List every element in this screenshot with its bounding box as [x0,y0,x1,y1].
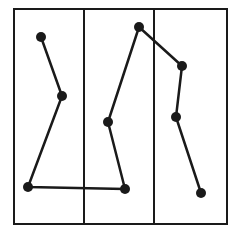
column-dividers [84,9,154,224]
column-path-diagram [0,0,239,231]
outer-frame [14,9,227,224]
point-7 [177,61,187,71]
point-8 [171,112,181,122]
point-9 [196,188,206,198]
point-1 [36,32,46,42]
point-2 [57,91,67,101]
point-5 [103,117,113,127]
connecting-path [28,27,201,193]
point-4 [120,184,130,194]
point-6 [134,22,144,32]
point-3 [23,182,33,192]
path-points [23,22,206,198]
